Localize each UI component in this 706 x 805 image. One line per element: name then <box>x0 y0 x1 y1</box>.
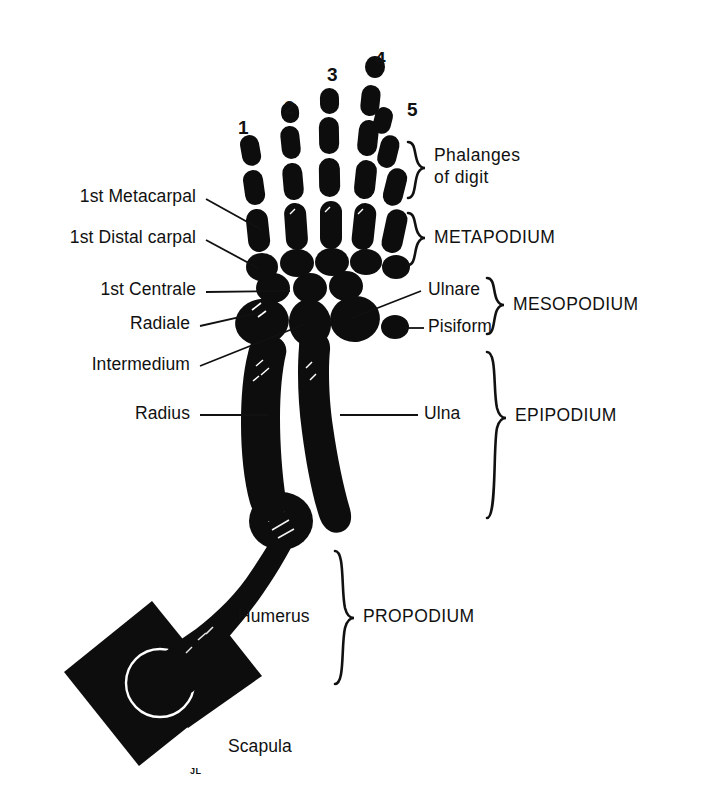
label-1st-centrale: 1st Centrale <box>0 280 196 300</box>
digit-number-1: 1 <box>238 117 249 138</box>
label-radius: Radius <box>0 404 190 424</box>
label-mesopodium: MESOPODIUM <box>513 295 639 315</box>
label-1st-distal-carpal: 1st Distal carpal <box>0 228 196 248</box>
distal-carpal-row <box>246 248 410 281</box>
label-pisiform: Pisiform <box>428 317 492 337</box>
label-ulna: Ulna <box>424 404 460 424</box>
artist-initials: JL <box>190 766 202 776</box>
label-propodium: PROPODIUM <box>363 607 475 627</box>
limb-skeleton-figure: 1 2 3 4 5 1st Metacarpal 1st Distal carp… <box>0 0 706 805</box>
phalanges-digit-1 <box>239 133 267 206</box>
label-humerus: Humerus <box>238 607 310 627</box>
radius-bone <box>241 335 286 521</box>
digit-number-2: 2 <box>284 97 295 118</box>
label-epipodium: EPIPODIUM <box>515 406 617 426</box>
phalanges-digit-5 <box>371 105 409 208</box>
label-intermedium: Intermedium <box>0 355 190 375</box>
ulna-bone <box>298 331 351 533</box>
digit-number-4: 4 <box>375 48 386 69</box>
metacarpal-bones <box>245 201 409 255</box>
proximal-carpal-row <box>231 292 409 350</box>
label-ulnare: Ulnare <box>428 280 480 300</box>
skeleton-artwork <box>0 0 706 805</box>
digit-number-5: 5 <box>407 99 418 120</box>
label-1st-metacarpal: 1st Metacarpal <box>0 187 196 207</box>
phalanges-digit-3 <box>319 88 341 197</box>
label-radiale: Radiale <box>0 314 190 334</box>
label-phalanges-line1: Phalanges <box>434 146 520 166</box>
label-scapula: Scapula <box>228 737 292 757</box>
label-metapodium: METAPODIUM <box>434 228 555 248</box>
digit-number-3: 3 <box>327 64 338 85</box>
label-phalanges-line2: of digit <box>434 168 489 188</box>
